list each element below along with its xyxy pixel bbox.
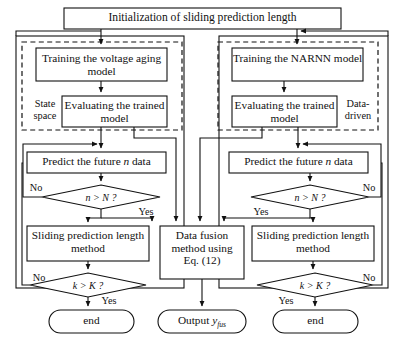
right-decision-n-no-label: No: [357, 182, 381, 194]
left-decision-k-label: k > K ?: [58, 280, 118, 291]
left-decision-k-no-label: No: [27, 272, 51, 284]
flowchart-canvas: Initialization of sliding prediction len…: [0, 0, 404, 347]
right-evaluate-box-label: Evaluating the trained model: [232, 99, 337, 124]
right-decision-n-yes-label: Yes: [247, 206, 275, 218]
fusion-line-3: Eq. (12): [183, 254, 220, 266]
left-terminal-label: end: [49, 314, 134, 327]
left-evaluate-box-label: Evaluating the trained model: [62, 99, 167, 124]
left-decision-n-yes-label: Yes: [132, 206, 160, 218]
left-sliding-box-label: Sliding prediction length method: [27, 229, 149, 254]
left-decision-n-no-label: No: [24, 182, 48, 194]
right-train-box-label: Training the NARNN model: [232, 52, 363, 65]
data-driven-group-label: Data-driven: [339, 98, 377, 121]
conn-left-decision-n-yes-to-fusion: [101, 218, 152, 221]
left-train-box-label: Training the voltage aging model: [36, 52, 167, 77]
right-sliding-box-label: Sliding prediction length method: [252, 229, 374, 254]
title-box-label: Initialization of sliding prediction len…: [64, 11, 341, 24]
conn-right-decision-n-yes: [310, 209, 313, 222]
right-predict-post: data: [331, 155, 353, 167]
left-decision-k-yes-label: Yes: [95, 295, 123, 307]
right-decision-n-label: n > N ?: [280, 192, 340, 203]
conn-left-decision-n-yes: [88, 209, 101, 222]
fusion-line-2: method using: [171, 242, 232, 254]
output-pre: Output: [178, 314, 212, 326]
left-predict-post: data: [129, 155, 151, 167]
left-predict-box-label: Predict the future n data: [27, 155, 166, 168]
fusion-box-label: Data fusion method using Eq. (12): [158, 229, 246, 267]
rail-left-frame-to-title: [16, 31, 101, 36]
left-decision-k-text: k > K ?: [73, 280, 103, 291]
right-decision-k-text: k > K ?: [300, 280, 330, 291]
rail-right-frame-to-title: [301, 31, 388, 36]
conn-right-decision-n-yes-to-fusion: [224, 218, 310, 221]
right-decision-n-text: n > N ?: [295, 192, 326, 203]
left-decision-n-label: n > N ?: [71, 192, 131, 203]
output-terminal-label: Output yfus: [158, 314, 246, 330]
left-predict-pre: Predict the future: [42, 155, 123, 167]
right-decision-k-no-label: No: [357, 272, 381, 284]
fusion-line-1: Data fusion: [176, 229, 228, 241]
right-terminal-label: end: [273, 314, 358, 327]
right-decision-k-yes-label: Yes: [272, 295, 300, 307]
state-space-group-label: State space: [25, 98, 65, 121]
right-decision-k-label: k > K ?: [285, 280, 345, 291]
left-decision-n-text: n > N ?: [86, 192, 117, 203]
right-predict-pre: Predict the future: [244, 155, 325, 167]
right-predict-box-label: Predict the future n data: [229, 155, 368, 168]
output-subscript: fus: [217, 320, 226, 329]
